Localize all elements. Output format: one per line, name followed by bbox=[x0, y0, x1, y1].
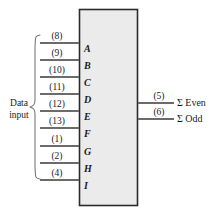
input-pin-number-g: (1) bbox=[40, 135, 74, 145]
parity-chip-diagram: Data input (8)A(9)B(10)C(11)D(12)E(13)F(… bbox=[0, 0, 210, 217]
chip-input-label-e: E bbox=[84, 112, 91, 122]
chip-input-label-f: F bbox=[84, 129, 91, 139]
output-pin-number-0: (5) bbox=[144, 92, 174, 102]
data-input-label-line1: Data bbox=[1, 99, 37, 109]
input-pin-number-b: (9) bbox=[40, 49, 74, 59]
input-pin-number-f: (13) bbox=[40, 117, 74, 127]
chip-body bbox=[80, 10, 138, 206]
chip-input-label-d: D bbox=[84, 95, 91, 105]
input-pin-number-c: (10) bbox=[40, 66, 74, 76]
chip-input-label-i: I bbox=[84, 181, 88, 191]
output-label-1: Σ Odd bbox=[177, 114, 203, 124]
chip-input-label-b: B bbox=[84, 61, 91, 71]
input-pin-number-a: (8) bbox=[40, 32, 74, 42]
chip-input-label-h: H bbox=[84, 164, 92, 174]
data-input-label-line2: input bbox=[1, 111, 37, 121]
input-pin-number-e: (12) bbox=[40, 100, 74, 110]
input-pin-number-i: (4) bbox=[40, 169, 74, 179]
output-pin-number-1: (6) bbox=[144, 108, 174, 118]
chip-input-label-a: A bbox=[84, 44, 91, 54]
data-input-label: Data input bbox=[1, 99, 37, 120]
output-label-0: Σ Even bbox=[177, 98, 206, 108]
chip-input-label-c: C bbox=[84, 78, 91, 88]
chip-input-label-g: G bbox=[84, 147, 91, 157]
input-pin-number-h: (2) bbox=[40, 152, 74, 162]
input-pin-number-d: (11) bbox=[40, 83, 74, 93]
